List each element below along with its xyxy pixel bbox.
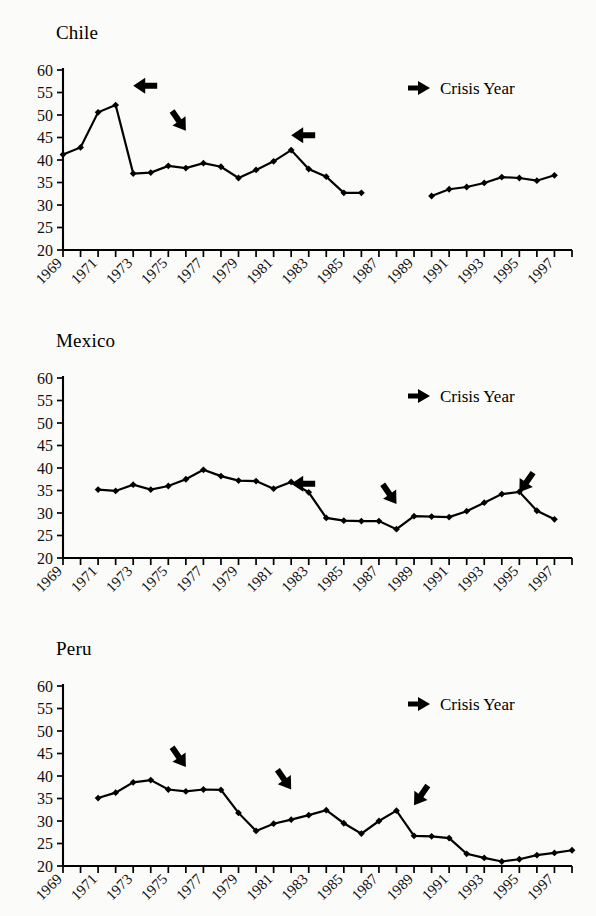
x-tick-label: 1997	[524, 870, 557, 903]
y-tick-label: 50	[37, 415, 53, 432]
x-tick-label: 1973	[103, 255, 136, 288]
y-tick-label: 60	[37, 370, 53, 387]
y-tick-label: 55	[37, 700, 53, 717]
chart-chile: 2025303540455055601969197119731975197719…	[0, 0, 596, 305]
data-point	[130, 170, 137, 177]
x-tick-label: 1995	[489, 255, 522, 288]
x-tick-label: 1975	[138, 255, 171, 288]
data-point	[481, 855, 488, 862]
y-tick-label: 45	[37, 745, 53, 762]
x-tick-label: 1969	[33, 255, 66, 288]
legend-arrow-icon	[408, 697, 430, 711]
x-tick-label: 1979	[208, 563, 241, 596]
crisis-arrow-0	[291, 476, 315, 492]
data-point	[428, 833, 435, 840]
chart-panel-mexico: Mexico 202530354045505560196919711973197…	[0, 308, 596, 613]
x-tick-label: 1981	[243, 255, 276, 288]
data-point	[218, 473, 225, 480]
x-tick-label: 1989	[384, 255, 417, 288]
x-tick-label: 1985	[313, 255, 346, 288]
x-tick-label: 1987	[349, 254, 382, 287]
x-tick-label: 1987	[349, 870, 382, 903]
legend: Crisis Year	[408, 79, 515, 98]
data-point	[305, 812, 312, 819]
x-tick-label: 1975	[138, 563, 171, 596]
crisis-arrow-1	[271, 765, 298, 794]
data-point	[112, 102, 119, 109]
data-point	[112, 488, 119, 495]
y-tick-label: 25	[37, 219, 53, 236]
data-point	[130, 481, 137, 488]
x-tick-label: 1997	[524, 562, 557, 595]
data-point	[551, 172, 558, 179]
x-tick-label: 1991	[419, 871, 452, 904]
y-tick-label: 25	[37, 835, 53, 852]
x-tick-label: 1987	[349, 562, 382, 595]
crisis-arrow-2	[407, 781, 434, 810]
data-point	[463, 184, 470, 191]
y-tick-label: 20	[37, 858, 53, 875]
data-point	[270, 820, 277, 827]
chart-peru: 2025303540455055601969197119731975197719…	[0, 616, 596, 916]
data-point	[516, 856, 523, 863]
x-tick-label: 1981	[243, 563, 276, 596]
data-point	[481, 180, 488, 187]
x-tick-label: 1993	[454, 871, 487, 904]
chart-mexico: 2025303540455055601969197119731975197719…	[0, 308, 596, 613]
data-point	[498, 858, 505, 865]
y-tick-label: 35	[37, 174, 53, 191]
x-tick-label: 1989	[384, 871, 417, 904]
data-point	[358, 518, 365, 525]
legend-label: Crisis Year	[440, 79, 515, 98]
data-point	[516, 175, 523, 182]
data-point	[200, 160, 207, 167]
data-point	[288, 816, 295, 823]
x-tick-label: 1983	[278, 563, 311, 596]
x-tick-label: 1977	[173, 562, 206, 595]
data-point	[533, 852, 540, 859]
y-tick-label: 40	[37, 768, 53, 785]
data-point	[147, 169, 154, 176]
x-tick-label: 1977	[173, 870, 206, 903]
x-tick-label: 1969	[33, 563, 66, 596]
x-tick-label: 1993	[454, 563, 487, 596]
chart-panel-peru: Peru 20253035404550556019691971197319751…	[0, 616, 596, 916]
data-point	[95, 795, 102, 802]
y-tick-label: 20	[37, 242, 53, 259]
y-tick-label: 50	[37, 723, 53, 740]
x-tick-label: 1983	[278, 255, 311, 288]
x-tick-label: 1973	[103, 563, 136, 596]
x-tick-label: 1971	[68, 871, 101, 904]
y-tick-label: 45	[37, 129, 53, 146]
x-tick-label: 1975	[138, 871, 171, 904]
chart-panel-chile: Chile 2025303540455055601969197119731975…	[0, 0, 596, 305]
legend: Crisis Year	[408, 695, 515, 714]
x-tick-label: 1983	[278, 871, 311, 904]
x-tick-label: 1971	[68, 563, 101, 596]
y-tick-label: 30	[37, 813, 53, 830]
data-point	[182, 788, 189, 795]
y-tick-label: 35	[37, 790, 53, 807]
crisis-arrow-1	[166, 107, 193, 136]
data-point	[253, 478, 260, 485]
data-point	[270, 485, 277, 492]
y-tick-label: 50	[37, 107, 53, 124]
legend-arrow-icon	[408, 389, 430, 403]
data-point	[498, 174, 505, 181]
x-tick-label: 1991	[419, 563, 452, 596]
data-point	[551, 850, 558, 857]
data-point	[376, 518, 383, 525]
x-tick-label: 1993	[454, 255, 487, 288]
y-tick-label: 30	[37, 197, 53, 214]
x-tick-label: 1969	[33, 871, 66, 904]
legend: Crisis Year	[408, 387, 515, 406]
data-point	[358, 189, 365, 196]
data-point	[95, 486, 102, 493]
data-point	[235, 477, 242, 484]
x-tick-label: 1971	[68, 255, 101, 288]
x-tick-label: 1973	[103, 871, 136, 904]
data-point	[165, 483, 172, 490]
y-tick-label: 20	[37, 550, 53, 567]
x-tick-label: 1985	[313, 563, 346, 596]
data-point	[147, 486, 154, 493]
